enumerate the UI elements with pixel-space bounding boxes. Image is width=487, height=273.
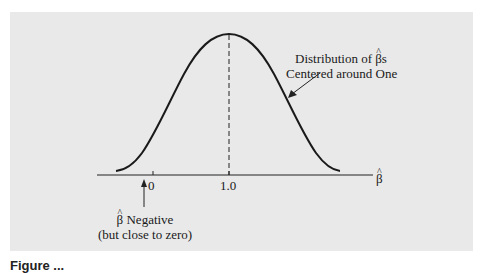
negative-annotation-text: Negative [123,212,173,227]
negative-annotation-line1: β Negative [86,212,204,227]
distribution-annotation: Distribution of βs Centered around One [286,51,396,81]
tick-label-zero: 0 [148,178,155,193]
x-axis-label: β [376,171,383,186]
beta-hat-symbol: β [376,171,383,186]
negative-annotation-line2: (but close to zero) [86,227,204,242]
figure-caption: Figure ... [10,258,64,273]
negative-annotation: β Negative (but close to zero) [86,212,204,242]
distribution-annotation-line1: Distribution of βs [286,51,396,66]
tick-label-one: 1.0 [220,178,236,193]
annotation-suffix: s [382,51,387,66]
beta-hat-symbol: β [117,212,124,227]
negative-arrowhead [141,179,147,187]
beta-hat-symbol: β [375,51,382,66]
annotation-text: Distribution of [295,51,375,66]
distribution-annotation-line2: Centered around One [286,66,396,81]
